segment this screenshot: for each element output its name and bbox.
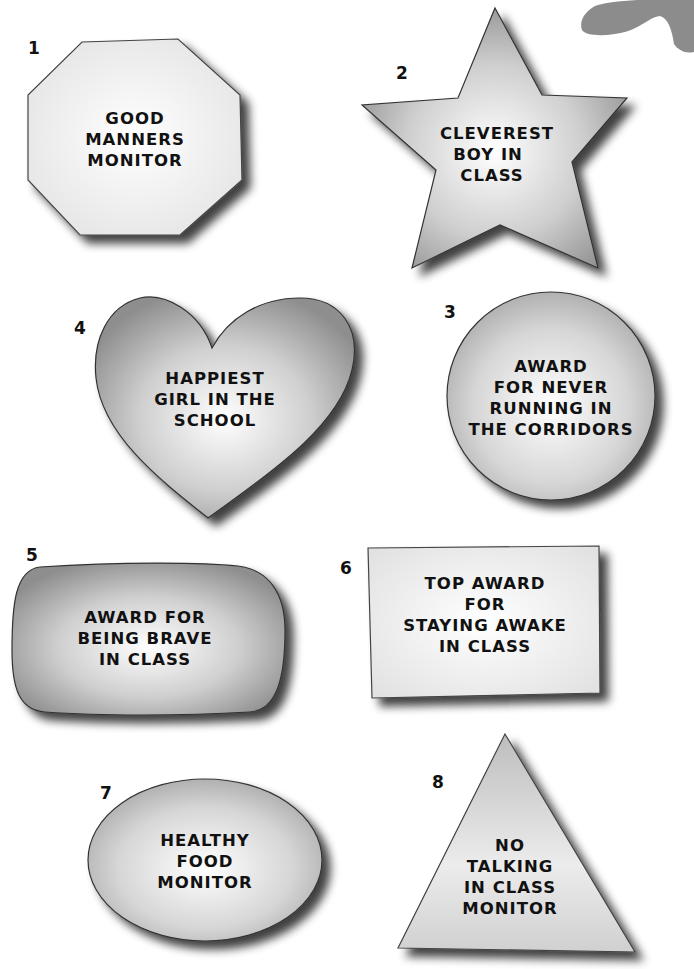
badge-number: 6 bbox=[340, 558, 352, 578]
badge-cleverest-boy: CLEVEREST BOY IN CLASS bbox=[350, 0, 650, 280]
badge-text: TOP AWARD FOR STAYING AWAKE IN CLASS bbox=[380, 570, 590, 660]
badge-text: CLEVEREST BOY IN CLASS bbox=[412, 118, 582, 190]
badge-text: GOOD MANNERS MONITOR bbox=[60, 98, 210, 180]
badge-good-manners-monitor: GOOD MANNERS MONITOR bbox=[0, 0, 300, 260]
badge-text: AWARD FOR BEING BRAVE IN CLASS bbox=[60, 602, 230, 674]
badge-text: AWARD FOR NEVER RUNNING IN THE CORRIDORS bbox=[446, 353, 656, 443]
badge-healthy-food-monitor: HEALTHY FOOD MONITOR bbox=[85, 775, 355, 965]
badge-text: NO TALKING IN CLASS MONITOR bbox=[440, 832, 580, 922]
badge-no-talking-monitor: NO TALKING IN CLASS MONITOR bbox=[380, 720, 680, 969]
badge-being-brave: AWARD FOR BEING BRAVE IN CLASS bbox=[0, 560, 310, 730]
badge-never-running-corridors: AWARD FOR NEVER RUNNING IN THE CORRIDORS bbox=[440, 285, 690, 530]
badge-text: HEALTHY FOOD MONITOR bbox=[130, 825, 280, 897]
badge-staying-awake: TOP AWARD FOR STAYING AWAKE IN CLASS bbox=[360, 540, 610, 720]
badge-happiest-girl: HAPPIEST GIRL IN THE SCHOOL bbox=[60, 260, 380, 540]
badge-text: HAPPIEST GIRL IN THE SCHOOL bbox=[135, 363, 295, 435]
